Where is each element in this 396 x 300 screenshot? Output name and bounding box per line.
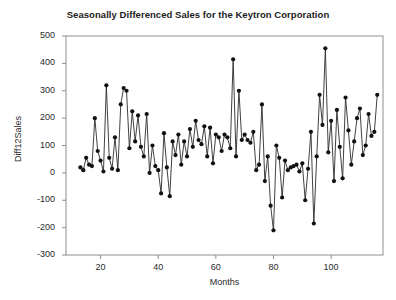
series-line: [80, 48, 377, 230]
chart-container: Seasonally Differenced Sales for the Key…: [0, 0, 396, 300]
series-markers: [78, 46, 379, 232]
plot-area: [0, 0, 396, 300]
axis-tick-marks: [62, 36, 331, 259]
